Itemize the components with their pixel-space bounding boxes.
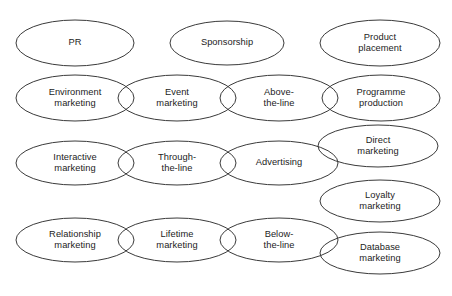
ellipse-label-layer: PRSponsorshipProduct placementEnvironmen…: [0, 0, 452, 296]
label-programme-production: Programme production: [356, 87, 405, 110]
label-interactive-marketing: Interactive marketing: [53, 152, 96, 175]
label-event-marketing: Event marketing: [156, 87, 197, 110]
label-direct-marketing: Direct marketing: [357, 135, 398, 158]
label-through-the-line: Through- the-line: [158, 152, 196, 175]
label-product-placement: Product placement: [358, 32, 401, 55]
label-loyalty-marketing: Loyalty marketing: [359, 190, 400, 213]
label-sponsorship: Sponsorship: [201, 37, 253, 48]
label-environment-marketing: Environment marketing: [49, 87, 102, 110]
label-below-the-line: Below- the-line: [264, 229, 295, 252]
label-above-the-line: Above- the-line: [264, 87, 295, 110]
label-pr: PR: [68, 37, 81, 48]
marketing-ellipse-diagram: PRSponsorshipProduct placementEnvironmen…: [0, 0, 452, 296]
label-advertising: Advertising: [256, 157, 303, 168]
label-relationship-marketing: Relationship marketing: [49, 229, 101, 252]
label-database-marketing: Database marketing: [359, 242, 400, 265]
label-lifetime-marketing: Lifetime marketing: [156, 229, 197, 252]
